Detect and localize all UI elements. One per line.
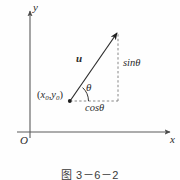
figure-caption: 图 3－6－2 (0, 166, 180, 180)
sin-theta-label: sinθ (123, 58, 140, 69)
base-point-label: (x0,y0) (37, 90, 63, 101)
x-axis-label: x (170, 134, 175, 145)
vector-u-arrow (70, 33, 117, 101)
point-paren-close: ) (59, 89, 63, 100)
figure-container: y x O u θ sinθ cosθ (x0,y0) 图 3－6－2 (0, 0, 180, 180)
y-axis-label: y (33, 2, 38, 13)
angle-theta-label: θ (86, 82, 91, 93)
base-point-dot (68, 99, 72, 103)
cos-theta-label: cosθ (85, 103, 104, 114)
vector-u-label: u (76, 53, 82, 64)
origin-label: O (20, 135, 28, 146)
